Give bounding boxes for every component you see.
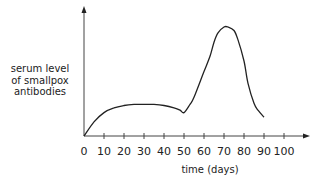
x-axis-label: time (days) [150, 164, 270, 175]
axes [82, 6, 311, 139]
x-tick-label: 100 [274, 145, 295, 158]
x-tick-label: 20 [117, 145, 131, 158]
x-tick-label: 30 [137, 145, 151, 158]
x-tick-label: 70 [217, 145, 231, 158]
x-tick-label: 0 [81, 145, 88, 158]
x-tick-label: 80 [237, 145, 251, 158]
antibody-curve [84, 26, 264, 136]
x-tick-label: 50 [177, 145, 191, 158]
x-tick-label: 10 [97, 145, 111, 158]
x-tick-label: 90 [257, 145, 271, 158]
x-tick-label: 40 [157, 145, 171, 158]
x-tick-label: 60 [197, 145, 211, 158]
